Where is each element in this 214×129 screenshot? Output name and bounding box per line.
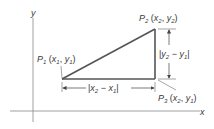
vertical-dimension: |y2 − y1|: [158, 30, 200, 78]
horizontal-dimension: |x2 − x1|: [63, 83, 154, 94]
point-label-p2: P2 (x2, y2): [139, 13, 178, 24]
y-axis-label: y: [30, 8, 36, 18]
distance-diagram: y x |x2 − x1| |y2 − y1| P1 (x1, y1) P2 (…: [0, 0, 214, 129]
x-axis-label: x: [199, 107, 205, 117]
point-label-p3: P3 (x2, y1): [158, 93, 197, 104]
point-label-p1: P1 (x1, y1): [37, 54, 76, 65]
svg-text:|x2 − x1|: |x2 − x1|: [88, 83, 119, 94]
right-triangle: [62, 29, 155, 79]
